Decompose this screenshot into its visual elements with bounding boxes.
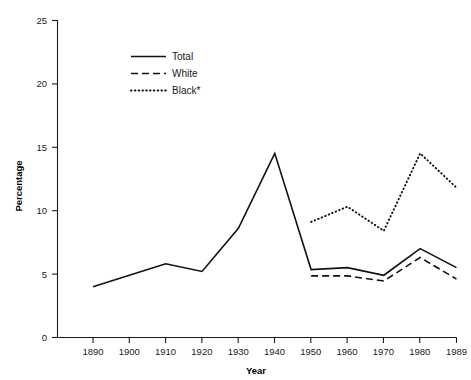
series-line-black <box>311 153 456 230</box>
chart-legend: Total White Black* <box>131 51 200 96</box>
x-tick-label: 1970 <box>373 346 394 357</box>
y-tick-label: 20 <box>36 78 47 89</box>
y-axis-title: Percentage <box>13 160 24 211</box>
y-tick-label: 5 <box>42 269 47 280</box>
y-tick-label: 15 <box>36 142 47 153</box>
chart-canvas: 25 20 15 10 5 0 <box>0 0 471 380</box>
x-tick-label: 1989 <box>446 346 467 357</box>
legend-label-total: Total <box>172 51 193 62</box>
y-tick-label: 25 <box>36 15 47 26</box>
y-tick-labels: 25 20 15 10 5 0 <box>36 15 47 343</box>
x-tick-label: 1940 <box>264 346 285 357</box>
x-tick-marks <box>93 338 457 344</box>
x-tick-label: 1950 <box>300 346 321 357</box>
x-tick-label: 1910 <box>155 346 176 357</box>
x-tick-label: 1920 <box>191 346 212 357</box>
x-tick-label: 1900 <box>119 346 140 357</box>
axes-group: 25 20 15 10 5 0 <box>13 15 467 376</box>
y-tick-label: 10 <box>36 205 47 216</box>
legend-label-white: White <box>172 68 198 79</box>
y-tick-label: 0 <box>42 332 47 343</box>
series-line-white <box>311 257 456 281</box>
line-chart: 25 20 15 10 5 0 <box>0 0 471 380</box>
x-tick-label: 1960 <box>337 346 358 357</box>
y-tick-marks <box>52 21 58 338</box>
x-tick-label: 1890 <box>82 346 103 357</box>
x-tick-label: 1980 <box>409 346 430 357</box>
x-tick-labels: 1890 1900 1910 1920 1930 1940 1950 1960 … <box>82 346 467 357</box>
x-axis-title: Year <box>246 365 266 376</box>
series-group <box>93 153 457 286</box>
x-tick-label: 1930 <box>228 346 249 357</box>
series-line-total <box>93 153 457 286</box>
legend-label-black: Black* <box>172 85 200 96</box>
